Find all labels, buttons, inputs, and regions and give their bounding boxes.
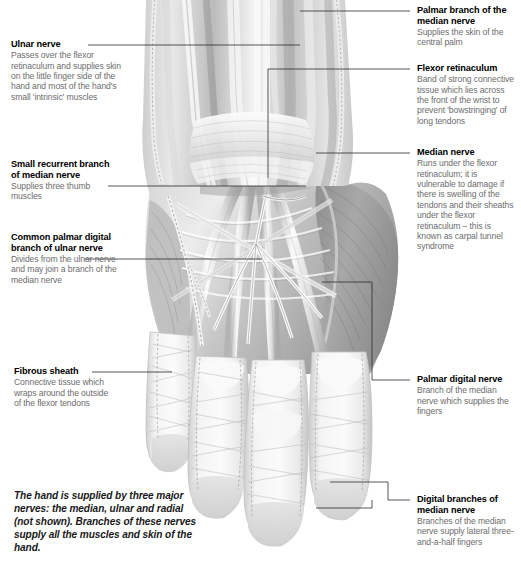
finger-four: [309, 352, 372, 520]
callout-title: Palmar digital nerve: [417, 374, 517, 385]
callout-common-palmar-digital-branch: Common palmar digital branch of ulnar ne…: [11, 232, 123, 285]
callout-fibrous-sheath: Fibrous sheath Connective tissue which w…: [14, 366, 114, 408]
callout-title: Palmar branch of the median nerve: [417, 5, 517, 26]
callout-title: Small recurrent branch of median nerve: [11, 159, 117, 180]
callout-title: Median nerve: [417, 147, 517, 158]
callout-body: Band of strong connective tissue which l…: [417, 74, 517, 126]
callout-body: Runs under the flexor retinaculum; it is…: [417, 158, 517, 252]
callout-title: Common palmar digital branch of ulnar ne…: [11, 232, 123, 253]
callout-median-nerve: Median nerve Runs under the flexor retin…: [417, 147, 517, 252]
callout-body: Connective tissue which wraps around the…: [14, 377, 114, 408]
callout-palmar-digital-nerve: Palmar digital nerve Branch of the media…: [417, 374, 517, 416]
summary-caption: The hand is supplied by three major nerv…: [14, 489, 204, 554]
flexor-retinaculum: [190, 112, 315, 184]
callout-body: Supplies three thumb muscles: [11, 181, 117, 202]
callout-small-recurrent-branch: Small recurrent branch of median nerve S…: [11, 159, 117, 202]
callout-palmar-branch-median-nerve: Palmar branch of the median nerve Suppli…: [417, 5, 517, 48]
callout-body: Branches of the median nerve supply late…: [417, 516, 517, 547]
callout-title: Fibrous sheath: [14, 366, 114, 377]
callout-body: Branch of the median nerve which supplie…: [417, 385, 517, 416]
callout-flexor-retinaculum: Flexor retinaculum Band of strong connec…: [417, 63, 517, 126]
finger-three: [244, 360, 309, 547]
callout-title: Digital branches of median nerve: [417, 494, 517, 515]
callout-digital-branches-median-nerve: Digital branches of median nerve Branche…: [417, 494, 517, 547]
callout-body: Divides from the ulnar nerve and may joi…: [11, 254, 123, 285]
callout-title: Ulnar nerve: [11, 39, 121, 50]
callout-ulnar-nerve: Ulnar nerve Passes over the flexor retin…: [11, 39, 121, 102]
callout-body: Supplies the skin of the central palm: [417, 27, 517, 48]
callout-title: Flexor retinaculum: [417, 63, 517, 74]
callout-body: Passes over the flexor retinaculum and s…: [11, 50, 121, 102]
figure-canvas: Ulnar nerve Passes over the flexor retin…: [0, 0, 521, 563]
